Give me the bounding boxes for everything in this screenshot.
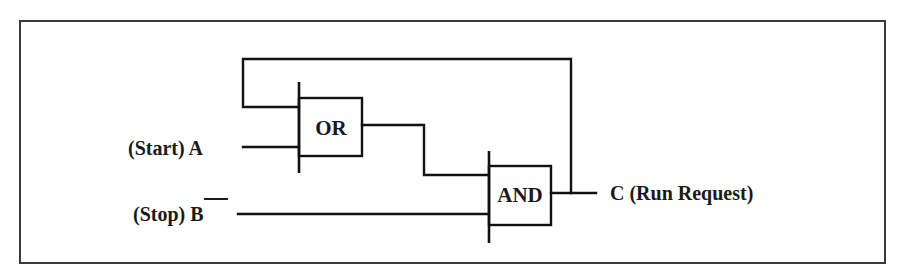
input-a-label: (Start) A bbox=[128, 137, 204, 160]
input-a-name: (Start) bbox=[128, 137, 185, 160]
and-gate-label: AND bbox=[497, 183, 543, 207]
or-gate-label: OR bbox=[315, 116, 347, 140]
input-b-symbol: B bbox=[190, 203, 203, 225]
or-to-and-wire bbox=[362, 125, 489, 175]
logic-diagram: OR AND (Start) A (Stop) B C (Run Request… bbox=[0, 0, 905, 279]
or-gate: OR bbox=[299, 82, 362, 173]
output-c-label: C (Run Request) bbox=[610, 182, 753, 205]
input-b-name: (Stop) bbox=[133, 203, 185, 226]
and-gate: AND bbox=[489, 151, 551, 243]
input-b-label: (Stop) B bbox=[133, 203, 204, 226]
input-a-symbol: A bbox=[189, 137, 204, 159]
